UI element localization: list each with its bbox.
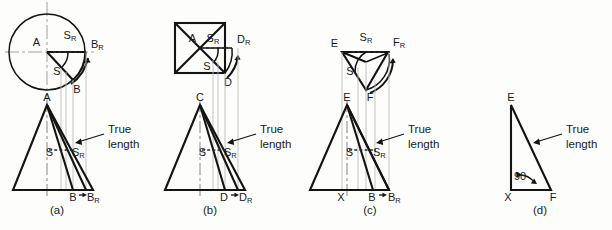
label-B-top-a: B (73, 83, 80, 95)
true-length-note-line1-a: True (108, 123, 131, 135)
label-A-top-a: A (33, 36, 41, 48)
panel-d: E X F 90 True length (d) (504, 91, 597, 216)
label-S-front-b: S (199, 146, 206, 158)
label-C-front-b: C (196, 91, 204, 103)
label-E-front-c: E (343, 91, 350, 103)
true-length-arrowhead-b (227, 139, 234, 146)
label-A-top-b: A (189, 32, 197, 44)
label-BR-top-a: BR (91, 38, 104, 52)
angle-label-d: 90 (514, 170, 526, 182)
true-length-note-line2-a: length (108, 138, 139, 150)
radius-revolved-c (366, 52, 390, 62)
label-F-top-c: F (367, 91, 374, 103)
element-true-length-c (347, 105, 389, 190)
label-DR-top-b: DR (237, 33, 251, 47)
true-length-leader-c (379, 134, 404, 142)
angle-arc-a (62, 52, 68, 67)
label-D-front-b: D (220, 191, 228, 203)
true-length-leader-b (230, 134, 256, 142)
true-length-note-line1-b: True (260, 123, 283, 135)
true-length-note-line2-c: length (408, 138, 439, 150)
label-E-front-d: E (507, 91, 514, 103)
label-S-top-a: S (53, 65, 60, 77)
b-to-br-arrowhead-c (383, 193, 388, 197)
panel-a-top-view: A SR BR S B (5, 2, 104, 100)
label-FR-top-c: FR (393, 36, 406, 50)
panel-c: E SR FR S F (310, 31, 439, 216)
label-B-front-a: B (69, 191, 76, 203)
true-length-note-line1-c: True (408, 123, 431, 135)
figure-root: A SR BR S B (0, 0, 612, 230)
label-BR-front-a: BR (87, 191, 100, 205)
label-SR-front-a: SR (72, 146, 85, 160)
label-DR-front-b: DR (239, 191, 253, 205)
label-S-top-c: S (346, 65, 353, 77)
label-S-top-b: S (203, 60, 210, 72)
label-B-front-c: B (368, 191, 375, 203)
true-length-leader-d (536, 134, 562, 142)
true-length-arrowhead-a (75, 139, 82, 146)
label-F-front-d: F (550, 191, 557, 203)
revolution-arc-b (225, 48, 232, 73)
label-X-front-d: X (504, 191, 512, 203)
true-length-arrowhead-c (376, 139, 383, 146)
label-SR-top-c: SR (360, 31, 373, 45)
panel-b-front-view: C S SR D DR True length (165, 91, 291, 205)
panel-a-front-view: A S SR B BR True length (13, 91, 139, 205)
caption-d: (d) (533, 204, 547, 216)
revolution-arrowhead-c (389, 58, 395, 63)
label-SR-front-c: SR (373, 146, 386, 160)
label-A-front-a: A (43, 91, 51, 103)
label-SR-top-a: SR (64, 29, 77, 43)
panel-d-front-view: E X F 90 True length (504, 91, 597, 203)
revolution-arrowhead-b (234, 55, 240, 60)
true-length-leader-a (78, 134, 104, 142)
label-S-front-c: S (346, 146, 353, 158)
label-E-top-c: E (331, 37, 338, 49)
true-length-note-line2-d: length (566, 138, 597, 150)
true-length-note-line2-b: length (260, 138, 291, 150)
technical-drawing-svg: A SR BR S B (0, 0, 612, 230)
label-S-front-a: S (46, 146, 53, 158)
caption-a: (a) (50, 204, 64, 216)
caption-c: (c) (363, 204, 377, 216)
label-SR-front-b: SR (224, 146, 237, 160)
label-BR-front-c: BR (388, 191, 401, 205)
label-X-front-c: X (337, 191, 345, 203)
panel-a: A SR BR S B (5, 2, 139, 216)
panel-b: A SR DR S D (165, 23, 291, 216)
label-SR-top-b: SR (207, 32, 220, 46)
true-length-arrowhead-d (533, 139, 540, 146)
true-length-note-line1-d: True (566, 123, 589, 135)
caption-b: (b) (203, 204, 217, 216)
